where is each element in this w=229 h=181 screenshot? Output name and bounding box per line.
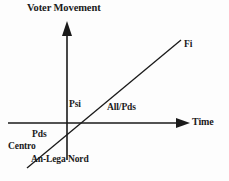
voter-movement-diagram: Voter Movement Time Fi Psi All/Pds Pds C… [0,0,229,181]
series-label-an-lega-nord: An-Lega Nord [31,155,89,165]
series-label-fi: Fi [184,40,192,50]
x-axis-label: Time [192,117,214,127]
page-title: Voter Movement [27,3,101,14]
series-label-centro: Centro [8,142,36,152]
series-label-pds: Pds [32,130,46,140]
trend-line [27,40,181,168]
y-axis-arrow-icon [62,21,72,36]
series-label-psi: Psi [69,100,81,110]
series-label-all-pds: All/Pds [107,103,136,113]
x-axis-arrow-icon [176,118,190,128]
